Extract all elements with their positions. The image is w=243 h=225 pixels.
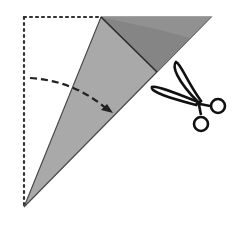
folding-diagram bbox=[0, 0, 243, 225]
scissors-icon bbox=[152, 62, 225, 131]
diagram-svg bbox=[0, 0, 243, 225]
